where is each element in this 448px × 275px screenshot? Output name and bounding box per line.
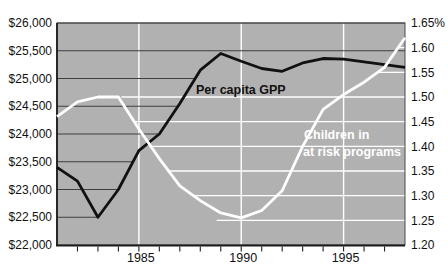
left-axis-label-23500: $23,500	[9, 155, 53, 169]
x-axis-label-1985: 1985	[127, 251, 155, 265]
left-axis-label-26000: $26,000	[9, 16, 53, 30]
left-axis-label-25500: $25,500	[9, 44, 53, 58]
dual-axis-line-chart: Per capita GPPChildren inat risk program…	[0, 0, 448, 275]
chart-page: Per capita GPPChildren inat risk program…	[0, 0, 448, 275]
x-axis-label-1995: 1995	[332, 251, 360, 265]
right-axis-label-1.55: 1.55	[411, 66, 435, 80]
right-axis-label-1.40: 1.40	[411, 140, 435, 154]
left-axis-label-24500: $24,500	[9, 99, 53, 113]
right-axis-label-1.50: 1.50	[411, 90, 435, 104]
children-line-label-line2: at risk programs	[303, 145, 401, 159]
left-axis-label-22000: $22,000	[9, 238, 53, 252]
left-axis-label-24000: $24,000	[9, 127, 53, 141]
right-axis-label-1.20: 1.20	[411, 238, 435, 252]
left-axis-label-23000: $23,000	[9, 183, 53, 197]
left-axis-label-22500: $22,500	[9, 210, 53, 224]
children-line-label-line1: Children in	[304, 128, 369, 142]
right-axis-label-1.35: 1.35	[411, 164, 435, 178]
right-axis-label-1.30: 1.30	[411, 189, 435, 203]
right-axis-label-1.65: 1.65%	[411, 16, 445, 30]
right-axis-label-1.25: 1.25	[411, 214, 435, 228]
right-axis-label-1.45: 1.45	[411, 115, 435, 129]
left-axis-label-25000: $25,000	[9, 72, 53, 86]
right-axis-label-1.60: 1.60	[411, 41, 435, 55]
gpp-line-label: Per capita GPP	[196, 83, 286, 97]
x-axis-label-1990: 1990	[229, 251, 257, 265]
